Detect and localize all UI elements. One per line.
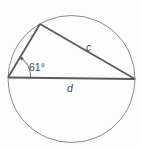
inscribed-triangle-diagram: 61° c d	[0, 0, 142, 150]
side-d-label: d	[67, 82, 74, 94]
angle-label: 61°	[29, 61, 45, 73]
side-c-label: c	[86, 41, 92, 53]
diameter-d	[8, 78, 135, 80]
